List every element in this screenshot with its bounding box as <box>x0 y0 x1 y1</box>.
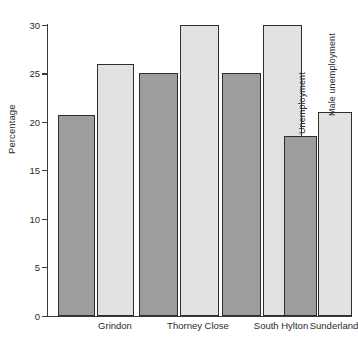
category-label-sunderland: Sunderland <box>310 320 358 331</box>
y-axis-title: Percentage <box>6 64 17 154</box>
y-tick-label: 25 <box>18 69 40 79</box>
y-tick-label: 15 <box>18 166 40 176</box>
y-tick-mark <box>42 25 48 26</box>
x-axis-line <box>47 316 352 317</box>
y-tick-mark <box>42 122 48 123</box>
bar-thorney-close-unemployment <box>139 73 178 315</box>
bar-south-hylton-unemployment <box>222 73 261 315</box>
bar-grindon-unemployment <box>58 115 95 316</box>
series-label-male-unemployment: Male unemployment <box>327 33 337 116</box>
category-label-south-hylton: South Hylton <box>254 320 308 331</box>
y-tick-label: 20 <box>18 117 40 127</box>
bar-thorney-close-male-unemployment <box>180 25 219 316</box>
y-tick-label: 30 <box>18 21 40 31</box>
bar-sunderland-unemployment <box>284 136 317 315</box>
y-tick-mark <box>42 316 48 317</box>
series-label-unemployment: Unemployment <box>297 72 307 134</box>
bar-sunderland-male-unemployment <box>318 112 352 315</box>
y-tick-label: 10 <box>18 214 40 224</box>
y-tick-label: 0 <box>18 311 40 321</box>
y-tick-mark <box>42 267 48 268</box>
category-label-grindon: Grindon <box>98 320 132 331</box>
y-tick-mark <box>42 73 48 74</box>
y-tick-label: 5 <box>18 263 40 273</box>
y-tick-mark <box>42 170 48 171</box>
y-tick-mark <box>42 219 48 220</box>
category-label-thorney-close: Thorney Close <box>167 320 229 331</box>
bar-grindon-male-unemployment <box>97 64 134 316</box>
